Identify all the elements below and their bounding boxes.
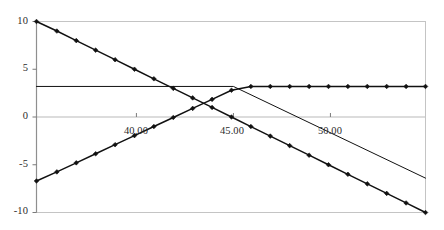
data-point <box>287 84 292 89</box>
data-point <box>326 84 331 89</box>
data-point <box>229 88 234 93</box>
data-point <box>34 19 39 24</box>
data-point <box>113 142 118 147</box>
y-tick-label-10: 10 <box>2 15 28 26</box>
y-tick-label-5: 5 <box>2 62 28 73</box>
x-tick-label-50: 50.00 <box>306 125 354 136</box>
data-point <box>249 84 254 89</box>
data-point <box>74 161 79 166</box>
data-point <box>34 179 39 184</box>
data-point <box>268 84 273 89</box>
data-point <box>210 97 215 102</box>
data-point <box>93 151 98 156</box>
data-point <box>404 84 409 89</box>
y-tick-label-neg5: -5 <box>2 158 28 169</box>
x-tick-label-40: 40.00 <box>112 125 160 136</box>
data-point <box>307 84 312 89</box>
chart-container: 10 5 0 -5 -10 40.00 45.00 50.00 <box>0 0 444 230</box>
data-point <box>423 84 428 89</box>
x-tick-label-45: 45.00 <box>208 125 256 136</box>
data-point <box>346 84 351 89</box>
gridlines <box>37 22 426 118</box>
data-point <box>190 106 195 111</box>
data-point <box>55 170 60 175</box>
data-point <box>171 115 176 120</box>
plot-area <box>0 0 444 230</box>
y-tick-label-0: 0 <box>2 110 28 121</box>
data-point <box>365 84 370 89</box>
data-point <box>384 84 389 89</box>
y-tick-label-neg10: -10 <box>0 205 28 216</box>
